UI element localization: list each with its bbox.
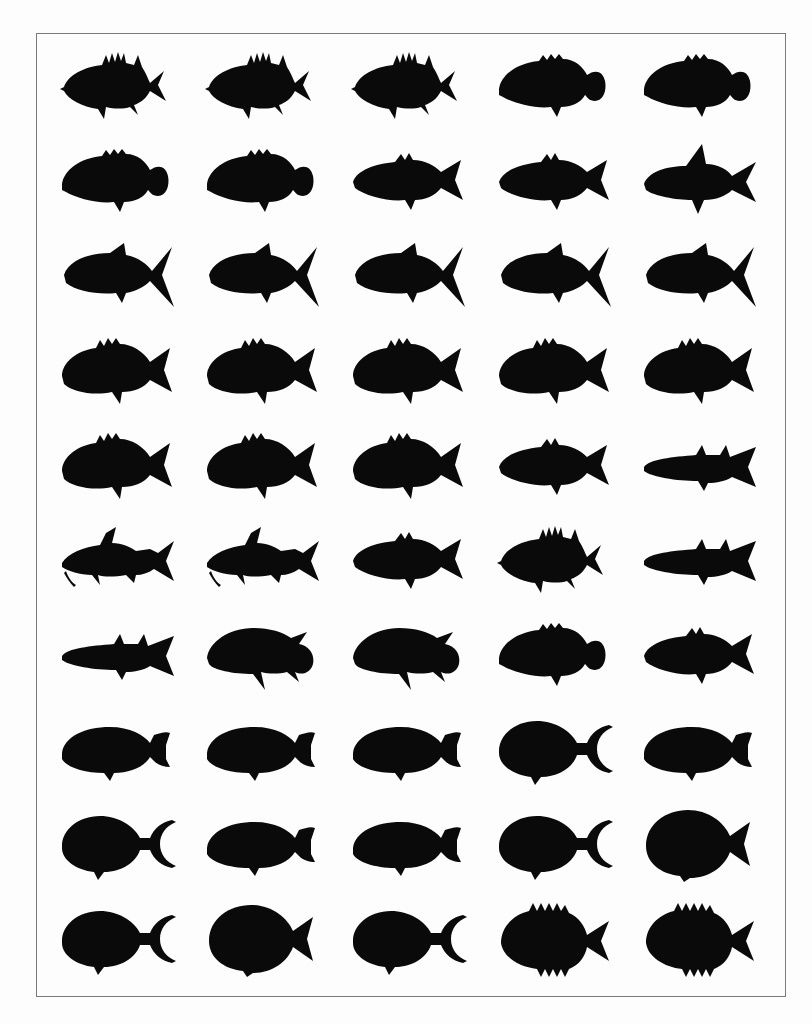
fish-silhouette-cell [629,796,775,891]
fish-perch-icon [345,140,477,220]
fish-round-grouper-icon [54,140,186,220]
fish-lunate-icon [54,804,186,884]
fish-silhouette-cell [338,702,484,797]
fish-silhouette-cell [193,38,339,133]
fish-silhouette-cell [338,38,484,133]
fish-spiny-perch-icon [491,519,623,599]
fish-round-grouper-icon [636,45,768,125]
fish-silhouette-cell [484,796,630,891]
fish-parrotfish-icon [199,709,331,789]
fish-slender-icon [636,519,768,599]
fish-tall-fin-icon [636,140,768,220]
fish-spiny-perch-icon [199,45,331,125]
fish-lunate-icon [345,899,477,979]
fish-round-grouper-icon [199,140,331,220]
fish-round-grouper-icon [491,614,623,694]
fish-parrotfish-icon [636,709,768,789]
fish-snapper-icon [345,330,477,410]
fish-silhouette-cell [629,417,775,512]
fish-jack-icon [54,235,186,315]
fish-silhouette-cell [338,322,484,417]
fish-silhouette-cell [193,512,339,607]
fish-snapper-icon [199,425,331,505]
fish-spiny-disc-icon [491,899,623,979]
fish-silhouette-cell [629,891,775,986]
fish-silhouette-cell [193,322,339,417]
fish-silhouette-cell [629,607,775,702]
fish-silhouette-cell [47,133,193,228]
fish-disc-icon [199,899,331,979]
fish-silhouette-cell [193,702,339,797]
fish-silhouette-cell [193,891,339,986]
fish-jack-icon [199,235,331,315]
fish-perch-icon [491,425,623,505]
fish-silhouette-cell [193,796,339,891]
fish-snapper-icon [54,425,186,505]
fish-silhouette-cell [484,38,630,133]
fish-lunate-icon [491,709,623,789]
fish-slender-icon [636,425,768,505]
fish-silhouette-cell [629,133,775,228]
fish-silhouette-cell [629,512,775,607]
fish-snapper-icon [491,330,623,410]
fish-silhouette-cell [338,796,484,891]
fish-silhouette-cell [484,512,630,607]
fish-silhouette-cell [47,228,193,323]
fish-snapper-icon [636,330,768,410]
fish-jack-icon [491,235,623,315]
fish-jack-icon [345,235,477,315]
fish-silhouette-cell [484,702,630,797]
fish-perch-icon [491,140,623,220]
fish-silhouette-cell [47,702,193,797]
fish-spiny-disc-icon [636,899,768,979]
fish-parrotfish-icon [199,804,331,884]
fish-silhouette-cell [47,512,193,607]
fish-slender-icon [54,614,186,694]
fish-silhouette-cell [629,702,775,797]
fish-silhouette-cell [193,417,339,512]
fish-grid [37,34,785,996]
fish-silhouette-cell [338,607,484,702]
fish-silhouette-cell [47,891,193,986]
fish-spiny-perch-icon [54,45,186,125]
fish-silhouette-cell [193,228,339,323]
fish-lunate-icon [491,804,623,884]
fish-snapper-icon [199,330,331,410]
fish-silhouette-cell [338,228,484,323]
fish-silhouette-cell [193,607,339,702]
fish-silhouette-cell [338,891,484,986]
fish-silhouette-cell [47,38,193,133]
fish-cichlid-icon [199,614,331,694]
fish-silhouette-cell [484,891,630,986]
fish-silhouette-figure [36,33,786,997]
fish-perch-icon [636,614,768,694]
fish-catfish-icon [54,519,186,599]
fish-silhouette-cell [338,133,484,228]
fish-silhouette-cell [484,322,630,417]
fish-silhouette-cell [338,512,484,607]
fish-parrotfish-icon [54,709,186,789]
fish-snapper-icon [345,425,477,505]
fish-disc-icon [636,804,768,884]
fish-silhouette-cell [484,133,630,228]
fish-parrotfish-icon [345,804,477,884]
fish-silhouette-cell [484,417,630,512]
fish-jack-icon [636,235,768,315]
fish-silhouette-cell [629,228,775,323]
fish-silhouette-cell [484,607,630,702]
fish-perch-icon [345,519,477,599]
fish-silhouette-cell [47,796,193,891]
fish-silhouette-cell [193,133,339,228]
fish-silhouette-cell [47,607,193,702]
fish-round-grouper-icon [491,45,623,125]
fish-silhouette-cell [629,322,775,417]
fish-catfish-icon [199,519,331,599]
fish-silhouette-cell [629,38,775,133]
fish-spiny-perch-icon [345,45,477,125]
fish-parrotfish-icon [345,709,477,789]
fish-lunate-icon [54,899,186,979]
fish-snapper-icon [54,330,186,410]
fish-silhouette-cell [484,228,630,323]
fish-silhouette-cell [47,417,193,512]
fish-cichlid-icon [345,614,477,694]
